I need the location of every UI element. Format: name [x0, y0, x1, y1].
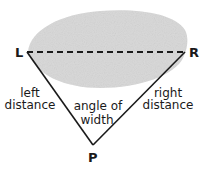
angle-of-width-diagram: L R P left distance right distance angle… — [0, 0, 206, 170]
point-r-label: R — [189, 45, 199, 60]
distant-object-blob — [28, 10, 187, 88]
left-distance-label-line2: distance — [5, 98, 56, 112]
right-distance-label-line2: distance — [143, 98, 194, 112]
point-p-label: P — [88, 150, 98, 165]
angle-of-width-label-line2: width — [80, 113, 113, 127]
angle-of-width-label-line1: angle of — [74, 99, 123, 113]
point-l-label: L — [15, 45, 23, 60]
